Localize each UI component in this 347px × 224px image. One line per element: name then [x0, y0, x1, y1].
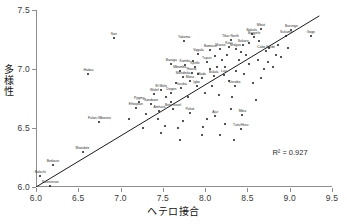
x-tick-mark	[332, 188, 333, 192]
x-tick-label: 7.0	[101, 193, 141, 203]
data-point-label: Baraga	[166, 59, 177, 62]
x-tick-label: 7.5	[143, 193, 183, 203]
data-point-label: Sukuma	[280, 31, 292, 34]
x-tick-label: 8.5	[227, 193, 267, 203]
x-tick-mark	[121, 188, 122, 192]
x-tick-mark	[36, 188, 37, 192]
y-tick-mark	[32, 128, 36, 129]
plot-area: PalestinianBalochiBedouinMozabiteFulani …	[36, 10, 332, 187]
data-point-label: Luo	[221, 69, 227, 72]
y-tick-label: 7.5	[0, 5, 30, 15]
data-point-label: Tupuri	[202, 57, 212, 60]
data-point-label: Cabo Verde	[257, 46, 275, 49]
data-point-label: Sokoro	[238, 40, 249, 43]
r2-annotation: R² = 0.927	[272, 148, 307, 157]
data-point-label: Bedouin	[47, 159, 59, 162]
data-point-label: Mbuti	[257, 23, 265, 26]
y-axis-title: 多様性	[2, 64, 16, 97]
data-point-label: Ajur	[212, 111, 218, 114]
x-tick-label: 9.0	[270, 193, 310, 203]
y-tick-mark	[32, 69, 36, 70]
data-point-label: Tikar North	[222, 34, 239, 37]
x-tick-mark	[205, 188, 206, 192]
data-point-label: Dogon	[166, 87, 176, 90]
data-point-label: Amhara	[154, 106, 166, 109]
data-point-label: Gogo	[307, 31, 315, 34]
data-point-label: Kotu	[225, 41, 232, 44]
point-labels-layer: PalestinianBalochiBedouinMozabiteFulani …	[36, 10, 332, 187]
x-tick-label: 9.5	[312, 193, 347, 203]
data-point-label: Yakoma	[178, 35, 190, 38]
data-point-label: Fulani Mbororo	[88, 117, 111, 120]
x-tick-label: 8.0	[185, 193, 225, 203]
data-point-label: Ethiopian	[129, 103, 143, 106]
data-point-label: Mada	[198, 73, 206, 76]
data-point-label: Balochi	[35, 171, 46, 174]
x-tick-mark	[163, 188, 164, 192]
data-point-label: Igbo	[193, 80, 200, 83]
scatter-plot-figure: PalestinianBalochiBedouinMozabiteFulani …	[0, 0, 347, 224]
data-point-label: Palestinian	[42, 180, 59, 183]
x-tick-mark	[290, 188, 291, 192]
data-point-label: Yoruba	[176, 82, 187, 85]
data-point-label: Burunge	[285, 25, 298, 28]
data-point-label: Vagala	[193, 48, 203, 51]
x-tick-label: 6.5	[58, 193, 98, 203]
data-point-label: Bulala	[209, 71, 218, 74]
data-point-label: Pygmy	[134, 97, 144, 100]
data-point-label: Wolof	[150, 88, 159, 91]
data-point-label: Mbia	[239, 110, 246, 113]
x-tick-mark	[247, 188, 248, 192]
data-point-label: Pokot	[186, 107, 195, 110]
data-point-label: Bagyele	[248, 32, 260, 35]
data-point-label: Massa	[215, 44, 225, 47]
data-point-label: Mbamba	[173, 66, 186, 69]
data-point-label: Hadza	[84, 68, 94, 71]
data-point-label: Dorobo	[229, 80, 240, 83]
data-point-label: Kpelle	[190, 61, 199, 64]
data-point-label: Kambu	[179, 60, 190, 63]
data-point-label: Sandawe	[144, 99, 158, 102]
y-tick-label: 6.5	[0, 123, 30, 133]
data-point-label: Beta Israel	[165, 104, 181, 107]
x-tick-label: 6.0	[16, 193, 56, 203]
y-tick-mark	[32, 10, 36, 11]
x-axis-title: ヘテロ接合	[0, 203, 347, 218]
y-tick-label: 6.0	[0, 182, 30, 192]
x-tick-mark	[78, 188, 79, 192]
data-point-label: San	[111, 33, 117, 36]
data-point-label: Tutsi/Hutu	[233, 124, 248, 127]
data-point-label: Mozabite	[76, 146, 90, 149]
